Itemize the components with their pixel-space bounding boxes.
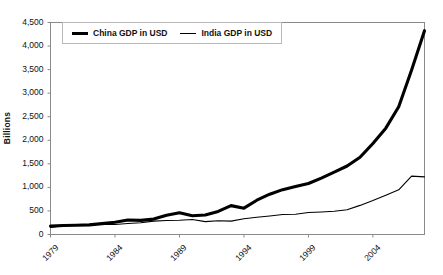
chart-legend: China GDP in USDIndia GDP in USD <box>62 22 282 44</box>
gdp-line-chart: Billions 4,5004,0003,5003,0002,5002,0001… <box>0 0 443 275</box>
legend-line-swatch-icon <box>180 33 196 34</box>
legend-label: China GDP in USD <box>93 28 167 38</box>
legend-entry: China GDP in USD <box>72 28 167 38</box>
legend-line-swatch-icon <box>72 32 88 35</box>
legend-label: India GDP in USD <box>201 28 272 38</box>
legend-entry: India GDP in USD <box>180 28 272 38</box>
